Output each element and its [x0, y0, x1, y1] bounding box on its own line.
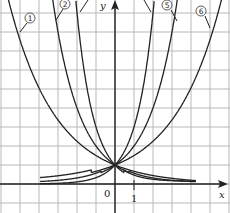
svg-text:6: 6	[199, 7, 204, 16]
svg-text:1: 1	[28, 14, 33, 23]
curve-arrow-3	[80, 0, 88, 12]
svg-text:5: 5	[165, 1, 170, 10]
exponential-graph: x y 0 1 1 2 5 6	[0, 0, 230, 213]
curve-arrow-4	[144, 0, 151, 12]
x-axis-label: x	[219, 189, 225, 200]
curve-5	[40, 0, 177, 182]
curve-2	[53, 0, 196, 182]
curve-label-6: 6	[196, 6, 210, 28]
curve-label-1: 1	[20, 13, 35, 32]
origin-label: 0	[104, 188, 110, 199]
curve-label-5: 5	[162, 0, 177, 21]
x-tick-label: 1	[131, 193, 137, 204]
y-axis-label: y	[99, 0, 106, 11]
svg-text:2: 2	[63, 0, 68, 9]
